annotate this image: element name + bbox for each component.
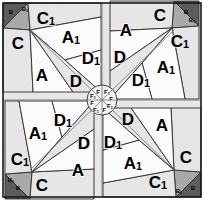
label-D-q3: D bbox=[122, 110, 134, 129]
label-D1-q4-base: D bbox=[54, 111, 66, 130]
label-C-q1: C bbox=[12, 34, 24, 53]
label-D-q4: D bbox=[78, 134, 90, 153]
label-C1-q4-base: C bbox=[11, 150, 23, 169]
figure-canvas: B B1 C C1 A A1 D D1 B bbox=[0, 0, 204, 200]
label-D1-q3-sub: 1 bbox=[116, 139, 122, 151]
label-A-q1: A bbox=[36, 66, 48, 85]
label-B-q2: B bbox=[184, 9, 189, 15]
label-C-q2: C bbox=[154, 6, 166, 25]
label-A1-q1-base: A bbox=[62, 28, 74, 47]
label-A1-q1-sub: 1 bbox=[74, 34, 80, 46]
label-A-q4: A bbox=[72, 161, 84, 180]
label-C1-q1-base: C bbox=[37, 9, 49, 28]
label-C-q3: C bbox=[180, 148, 192, 167]
label-C1-q2-sub: 1 bbox=[183, 38, 189, 50]
label-A1-q2-sub: 1 bbox=[169, 64, 175, 76]
label-C1-q2-base: C bbox=[171, 32, 183, 51]
label-D1-q1-sub: 1 bbox=[94, 55, 100, 67]
label-B-q1: B bbox=[9, 9, 14, 15]
label-A1-q2-base: A bbox=[157, 58, 169, 77]
label-F-c7: F bbox=[90, 100, 94, 106]
square-dissection-figure: B B1 C C1 A A1 D D1 B bbox=[0, 0, 204, 200]
label-F-c1: F bbox=[96, 89, 100, 95]
label-D1-q3-base: D bbox=[104, 133, 116, 152]
label-D1-q4-sub: 1 bbox=[66, 117, 72, 129]
label-F-c3: F bbox=[109, 96, 113, 102]
label-C1-q1-sub: 1 bbox=[49, 15, 55, 27]
label-D1-q2-sub: 1 bbox=[144, 77, 150, 89]
label-D1-q1-base: D bbox=[82, 49, 94, 68]
label-F-c5: F bbox=[102, 107, 106, 113]
label-B-q3: B bbox=[191, 185, 196, 191]
dissection-svg: B B1 C C1 A A1 D D1 B bbox=[0, 0, 204, 200]
label-C1-q3-sub: 1 bbox=[161, 179, 167, 191]
label-A1-q4-sub: 1 bbox=[41, 130, 47, 142]
label-D-q1: D bbox=[70, 72, 82, 91]
label-B-q4: B bbox=[16, 185, 21, 191]
label-D-q2: D bbox=[114, 48, 126, 67]
label-A1-q3-base: A bbox=[124, 154, 136, 173]
label-D1-q2-base: D bbox=[132, 71, 144, 90]
label-C1-q4-sub: 1 bbox=[23, 156, 29, 168]
label-A1-q3-sub: 1 bbox=[136, 160, 142, 172]
label-A-q3: A bbox=[156, 116, 168, 135]
label-A-q2: A bbox=[120, 21, 132, 40]
label-C1-q3-base: C bbox=[149, 173, 161, 192]
label-A1-q4-base: A bbox=[29, 124, 41, 143]
label-C-q4: C bbox=[36, 176, 48, 195]
